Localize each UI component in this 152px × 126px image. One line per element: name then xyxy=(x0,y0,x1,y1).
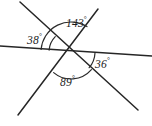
arc-38-degrees xyxy=(49,37,55,51)
angle-label-89: 89° xyxy=(60,75,75,88)
angle-value-38: 38 xyxy=(27,34,39,46)
degree-symbol-36: ° xyxy=(107,56,110,65)
angle-diagram: 143° 38° 36° 89° xyxy=(0,0,152,126)
angle-label-36: 36° xyxy=(95,57,110,70)
angle-value-143: 143 xyxy=(66,17,84,29)
angle-label-143: 143° xyxy=(66,16,87,29)
horizontal-line xyxy=(0,46,152,56)
angle-value-89: 89 xyxy=(60,76,72,88)
angle-value-36: 36 xyxy=(95,58,107,70)
degree-symbol-143: ° xyxy=(84,15,87,24)
degree-symbol-89: ° xyxy=(72,74,75,83)
degree-symbol-38: ° xyxy=(39,32,42,41)
angle-label-38: 38° xyxy=(27,33,42,46)
